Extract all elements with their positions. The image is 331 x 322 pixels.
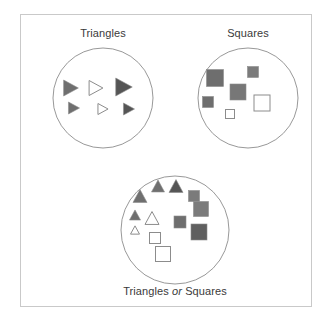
set-label-squares: Squares — [198, 27, 298, 39]
set-label-union: Triangles or Squares — [95, 285, 255, 297]
union-label-conjunction: or — [172, 285, 182, 297]
shape-square — [156, 247, 171, 262]
shape-triangle-up — [169, 180, 183, 193]
shape-triangle-up — [133, 190, 147, 203]
shape-square — [194, 202, 209, 217]
shape-square — [254, 95, 270, 111]
shape-square — [191, 224, 207, 240]
shape-square — [230, 84, 246, 100]
shape-square — [248, 67, 259, 78]
shape-triangle-right — [68, 102, 79, 114]
union-label-suffix: Squares — [185, 285, 227, 297]
set-members-layer — [64, 67, 270, 262]
shape-triangle-right — [64, 80, 79, 96]
shape-triangle-right — [123, 103, 134, 115]
set-label-triangles: Triangles — [53, 27, 153, 39]
shape-triangle-right — [89, 81, 103, 96]
shape-triangle-up — [152, 180, 165, 192]
shape-triangle-up — [130, 210, 141, 220]
shape-triangle-up — [131, 226, 140, 234]
shape-triangle-up — [145, 212, 159, 225]
figure-root: Triangles Squares Triangles or Squares — [0, 0, 331, 322]
venn-diagram-canvas — [0, 0, 331, 322]
shape-triangle-right — [98, 104, 108, 115]
shape-square — [189, 191, 200, 202]
shape-square — [226, 110, 235, 119]
shape-square — [150, 233, 161, 244]
shape-square — [203, 97, 214, 108]
set-circle-triangles — [53, 48, 153, 148]
shape-square — [174, 216, 186, 228]
shape-triangle-right — [116, 78, 133, 96]
shape-square — [207, 70, 224, 87]
union-label-prefix: Triangles — [123, 285, 169, 297]
